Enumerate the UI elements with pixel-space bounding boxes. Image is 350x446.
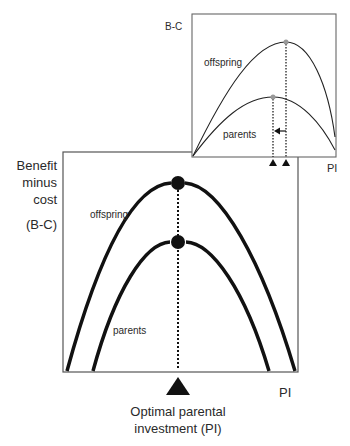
main-ylabel: Benefit minus cost (B-C) bbox=[4, 157, 57, 233]
main-optimum-triangle-marker bbox=[166, 377, 190, 395]
main-caption: Optimal parental investment (PI) bbox=[118, 403, 238, 437]
main-parents-label: parents bbox=[113, 325, 146, 336]
main-ylabel-line-4: (B-C) bbox=[4, 216, 57, 233]
inset-parents-label: parents bbox=[223, 129, 256, 140]
main-caption-line-2: investment (PI) bbox=[118, 420, 238, 437]
inset-offspring-peak-dot bbox=[284, 40, 289, 45]
main-caption-line-1: Optimal parental bbox=[118, 403, 238, 420]
main-parents-peak-dot bbox=[171, 235, 185, 249]
main-xlabel: PI bbox=[279, 385, 291, 400]
inset-xlabel: PI bbox=[327, 162, 337, 174]
inset-offspring-label: offspring bbox=[204, 57, 242, 68]
main-offspring-peak-dot bbox=[171, 176, 185, 190]
inset-parents-peak-dot bbox=[271, 95, 276, 100]
main-ylabel-line-3: cost bbox=[4, 191, 57, 208]
main-ylabel-line-1: Benefit bbox=[4, 157, 57, 174]
main-ylabel-line-2: minus bbox=[4, 174, 57, 191]
inset-plot-frame bbox=[192, 14, 336, 157]
main-offspring-label: offspring bbox=[90, 209, 128, 220]
inset-ylabel: B-C bbox=[165, 21, 182, 32]
